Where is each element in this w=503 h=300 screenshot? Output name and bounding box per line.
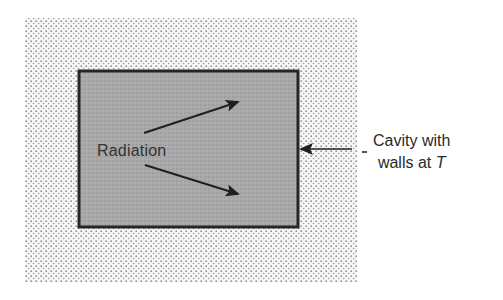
cavity-label-line1: Cavity with — [373, 130, 450, 152]
cavity-label-line2-prefix: walls at — [378, 154, 436, 171]
leader-dash — [362, 151, 367, 153]
radiation-label: Radiation — [97, 142, 166, 160]
cavity-label: Cavity with walls at T — [373, 130, 450, 174]
temperature-variable: T — [436, 154, 446, 171]
cavity-label-line2: walls at T — [373, 152, 450, 174]
